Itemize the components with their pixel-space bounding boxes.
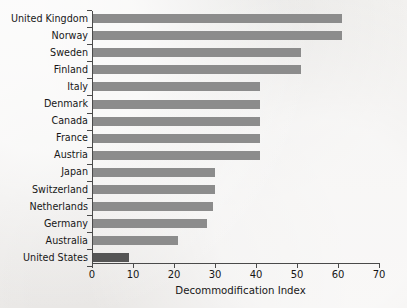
category-label-japan: Japan	[0, 167, 88, 177]
x-axis-tick	[174, 264, 175, 268]
bar-france	[93, 134, 260, 143]
bar-united-states	[93, 253, 129, 262]
x-axis-tick-label-20: 20	[159, 269, 189, 281]
bar-germany	[93, 219, 207, 228]
x-axis-tick	[379, 264, 380, 268]
category-label-norway: Norway	[0, 31, 88, 41]
bar-switzerland	[93, 185, 215, 194]
category-label-denmark: Denmark	[0, 99, 88, 109]
x-axis-tick-label-40: 40	[241, 269, 271, 281]
bar-finland	[93, 65, 301, 74]
category-label-germany: Germany	[0, 219, 88, 229]
category-label-finland: Finland	[0, 65, 88, 75]
category-label-france: France	[0, 133, 88, 143]
decommodification-index-bar-chart: United KingdomNorwaySwedenFinlandItalyDe…	[0, 0, 407, 308]
x-axis-tick	[133, 264, 134, 268]
bar-netherlands	[93, 202, 213, 211]
x-axis-tick-label-30: 30	[200, 269, 230, 281]
y-axis-tick	[87, 249, 92, 250]
x-axis-tick	[256, 264, 257, 268]
x-axis-tick-label-60: 60	[323, 269, 353, 281]
category-label-united-states: United States	[0, 253, 88, 263]
x-axis-title-text: Decommodification Index	[101, 285, 305, 296]
bar-italy	[93, 82, 260, 91]
category-label-united-kingdom: United Kingdom	[0, 14, 88, 24]
y-axis-tick	[87, 10, 92, 11]
category-label-italy: Italy	[0, 82, 88, 92]
bar-australia	[93, 236, 178, 245]
x-axis-tick	[92, 264, 93, 268]
x-axis-tick-label-10: 10	[118, 269, 148, 281]
category-label-australia: Australia	[0, 236, 88, 246]
y-axis-tick	[87, 147, 92, 148]
y-axis-tick	[87, 78, 92, 79]
x-axis-title: Decommodification Index	[0, 285, 407, 296]
x-axis-tick-label-0: 0	[77, 269, 107, 281]
y-axis-tick	[87, 95, 92, 96]
y-axis-tick	[87, 164, 92, 165]
category-label-netherlands: Netherlands	[0, 202, 88, 212]
category-label-sweden: Sweden	[0, 48, 88, 58]
bar-denmark	[93, 100, 260, 109]
y-axis-tick	[87, 181, 92, 182]
bar-japan	[93, 168, 215, 177]
x-axis-tick	[297, 264, 298, 268]
x-axis-tick-label-70: 70	[364, 269, 394, 281]
x-axis-line	[92, 263, 380, 264]
bar-sweden	[93, 48, 301, 57]
category-label-switzerland: Switzerland	[0, 185, 88, 195]
x-axis-tick-label-50: 50	[282, 269, 312, 281]
category-label-canada: Canada	[0, 116, 88, 126]
y-axis-tick	[87, 130, 92, 131]
bar-austria	[93, 151, 260, 160]
y-axis-tick	[87, 61, 92, 62]
y-axis-tick	[87, 44, 92, 45]
y-axis-tick	[87, 113, 92, 114]
x-axis-tick	[215, 264, 216, 268]
x-axis-tick	[338, 264, 339, 268]
y-axis-tick	[87, 27, 92, 28]
y-axis-tick	[87, 198, 92, 199]
category-label-austria: Austria	[0, 150, 88, 160]
y-axis-tick	[87, 215, 92, 216]
y-axis-tick	[87, 232, 92, 233]
bar-united-kingdom	[93, 14, 342, 23]
bar-norway	[93, 31, 342, 40]
bar-canada	[93, 117, 260, 126]
